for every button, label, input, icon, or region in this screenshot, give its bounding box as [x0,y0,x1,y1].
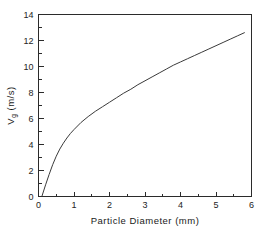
y-tick-label-2: 2 [28,166,33,176]
data-series-line [42,33,244,196]
y-axis-title: Vg (m/s) [5,86,18,124]
y-axis-title-text: Vg (m/s) [5,86,18,124]
x-axis-title: Particle Diameter (mm) [91,215,200,226]
y-tick-label-0: 0 [28,192,33,202]
x-axis-tick-labels: 0123456 [36,200,254,210]
figure-container: 0123456 02468101214 Particle Diameter (m… [0,0,272,234]
y-axis-units: (m/s) [5,86,16,113]
x-tick-label-5: 5 [213,200,218,210]
plot-frame [39,15,252,197]
y-tick-label-14: 14 [23,10,33,20]
x-tick-label-4: 4 [178,200,183,210]
y-tick-label-12: 12 [23,36,33,46]
y-tick-label-6: 6 [28,114,33,124]
y-axis-tick-labels: 02468101214 [23,10,33,202]
y-tick-label-10: 10 [23,62,33,72]
x-tick-label-1: 1 [71,200,76,210]
x-tick-label-3: 3 [142,200,147,210]
x-axis-title-text: Particle Diameter (mm) [91,215,200,226]
x-axis-ticks [39,192,252,197]
y-tick-label-4: 4 [28,140,33,150]
y-tick-label-8: 8 [28,88,33,98]
x-tick-label-2: 2 [107,200,112,210]
curve-terminal-velocity [42,33,244,196]
x-tick-label-6: 6 [249,200,254,210]
chart-plot: 0123456 02468101214 Particle Diameter (m… [0,0,272,234]
plot-frame-box [39,15,252,197]
y-axis-ticks [39,15,44,197]
x-tick-label-0: 0 [36,200,41,210]
